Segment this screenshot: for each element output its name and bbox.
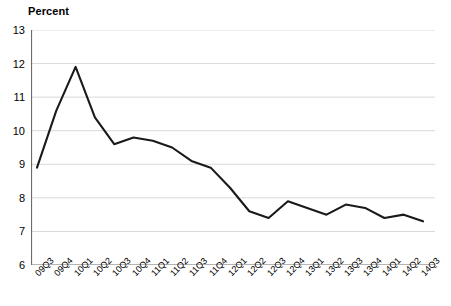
x-axis-tick-label: 12Q1 — [226, 255, 249, 278]
x-axis-tick-label: 12Q3 — [265, 255, 288, 278]
chart-container: Percent 131211109876 09Q309Q410Q110Q210Q… — [0, 0, 451, 306]
x-axis-tick-label: 11Q1 — [149, 256, 171, 278]
x-axis-tick-label: 10Q3 — [110, 255, 133, 278]
x-axis-tick-label: 12Q4 — [284, 255, 307, 278]
x-axis-tick-label: 11Q2 — [168, 256, 190, 278]
x-axis-tick-label: 14Q3 — [419, 255, 442, 278]
x-axis-tick-label: 11Q4 — [207, 256, 229, 278]
x-axis-tick-label: 10Q4 — [130, 255, 153, 278]
x-axis-tick-label: 10Q2 — [91, 255, 114, 278]
x-axis-tick-label: 13Q1 — [303, 255, 326, 278]
x-axis-tick-labels: 09Q309Q410Q110Q210Q310Q411Q111Q211Q311Q4… — [0, 0, 451, 306]
x-axis-tick-label: 13Q2 — [323, 255, 346, 278]
x-axis-tick-label: 13Q3 — [342, 255, 365, 278]
x-axis-tick-label: 14Q1 — [380, 255, 403, 278]
x-axis-tick-label: 09Q3 — [33, 255, 56, 278]
x-axis-tick-label: 13Q4 — [361, 255, 384, 278]
x-axis-tick-label: 11Q3 — [187, 256, 209, 278]
x-axis-tick-label: 12Q2 — [245, 255, 268, 278]
x-axis-tick-label: 14Q2 — [400, 255, 423, 278]
x-axis-tick-label: 10Q1 — [72, 255, 95, 278]
x-axis-tick-label: 09Q4 — [52, 255, 75, 278]
